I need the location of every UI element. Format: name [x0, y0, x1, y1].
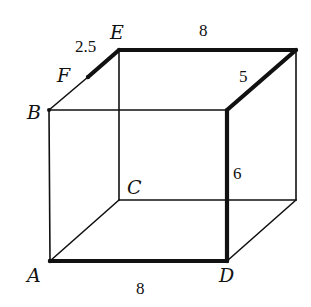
edge-A-C: [50, 200, 119, 261]
vertex-dot-A: [48, 259, 52, 263]
vertex-dot-D: [225, 259, 229, 263]
vertex-label-A: A: [25, 264, 41, 286]
vertex-label-D: D: [218, 264, 234, 286]
edge-back-top-right-front-top-right: [227, 50, 296, 110]
vertex-label-C: C: [127, 176, 142, 198]
measure-AD: 8: [136, 279, 145, 298]
vertex-label-F: F: [56, 64, 71, 86]
vertex-label-E: E: [109, 21, 124, 43]
edge-A-B: [49, 110, 50, 261]
measure-EF: 2.5: [75, 37, 96, 56]
vertex-label-B: B: [26, 101, 41, 123]
cube-diagram-canvas: A B C D E F 2.5 8 5 6 8: [0, 0, 311, 307]
vertex-dot-B: [47, 108, 51, 112]
cube-figure: A B C D E F 2.5 8 5 6 8: [0, 0, 311, 307]
edge-D-back-bottom-right: [227, 200, 296, 261]
vertex-dot-F: [86, 75, 90, 79]
measure-top-back-edge: 8: [199, 21, 208, 40]
measure-front-vertical-edge: 6: [233, 164, 242, 183]
measure-top-right-depth: 5: [239, 67, 248, 86]
